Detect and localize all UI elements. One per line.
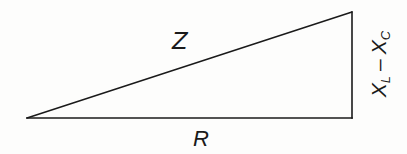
base-label-r: R <box>193 128 209 150</box>
reactance-term-xc: XC <box>368 31 389 54</box>
triangle-hypotenuse-line <box>27 12 352 118</box>
reactance-x-2: X <box>368 40 389 54</box>
reactance-subscript-c: C <box>379 31 392 40</box>
impedance-triangle-figure: Z R XL – XC <box>0 0 407 154</box>
reactance-subscript-l: L <box>379 76 392 83</box>
reactance-minus-operator: – <box>368 54 389 76</box>
reactance-term-xl: XL <box>368 76 389 97</box>
reactance-expression: XL – XC <box>368 31 389 97</box>
hypotenuse-label-z: Z <box>172 30 188 53</box>
reactance-x-1: X <box>368 83 389 97</box>
vertical-label-reactance: XL – XC <box>366 18 390 110</box>
